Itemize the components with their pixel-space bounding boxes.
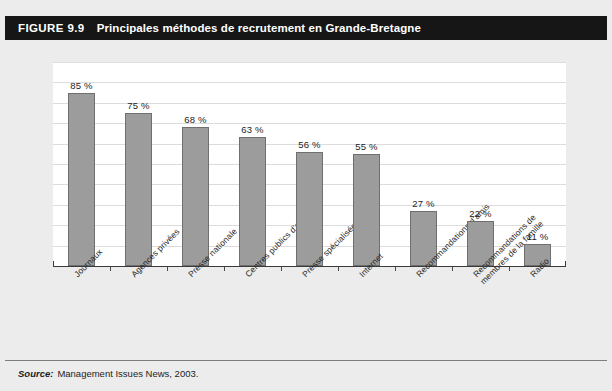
x-axis-tick: [338, 267, 339, 271]
bar-value-label: 27 %: [404, 198, 444, 209]
bar-value-label: 55 %: [347, 141, 387, 152]
bar-chart: 85 %Journaux75 %Agences privées68 %Press…: [5, 40, 607, 358]
bar-value-label: 85 %: [62, 80, 102, 91]
bar-value-label: 63 %: [233, 124, 273, 135]
x-axis-tick: [452, 267, 453, 271]
x-axis-tick: [224, 267, 225, 271]
source-label: Source:: [18, 368, 53, 379]
source-text: Management Issues News, 2003.: [57, 368, 198, 379]
bar: [353, 154, 380, 266]
x-axis-tick: [509, 267, 510, 271]
figure-frame: FIGURE 9.9 Principales méthodes de recru…: [0, 0, 612, 391]
source-line: Source:Management Issues News, 2003.: [18, 368, 198, 379]
bar: [296, 152, 323, 266]
gridline: [53, 82, 566, 83]
bar-value-label: 56 %: [290, 139, 330, 150]
bar-value-label: 68 %: [176, 114, 216, 125]
x-axis-tick: [110, 267, 111, 271]
x-axis-right-cap: [565, 261, 566, 267]
footer-divider: [5, 360, 607, 361]
gridline: [53, 62, 566, 63]
bar: [182, 127, 209, 266]
bar: [125, 113, 152, 266]
bar-value-label: 75 %: [119, 100, 159, 111]
figure-title: Principales méthodes de recrutement en G…: [97, 22, 421, 34]
figure-number: FIGURE 9.9: [18, 22, 85, 34]
x-axis-tick: [281, 267, 282, 271]
bar: [239, 137, 266, 266]
bar-value-label: 11 %: [518, 231, 558, 242]
x-axis-left-cap: [53, 261, 54, 267]
x-axis-tick: [395, 267, 396, 271]
figure-header: FIGURE 9.9 Principales méthodes de recru…: [5, 16, 607, 40]
bar-value-label: 22 %: [461, 208, 501, 219]
x-axis-tick: [167, 267, 168, 271]
bar: [68, 93, 95, 266]
